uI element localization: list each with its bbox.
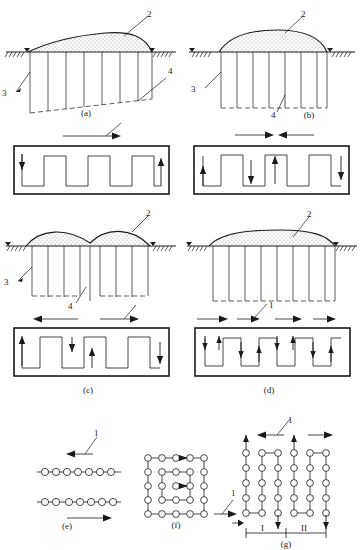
box-outline-a <box>14 146 169 194</box>
panel-b-box-group <box>181 118 361 208</box>
mound-fill-b <box>219 30 327 52</box>
arrow-head-e2 <box>103 515 112 522</box>
column-lines-g <box>246 453 326 513</box>
piles-d <box>213 246 335 301</box>
box-outline-b <box>194 146 349 194</box>
left-external-arrow-g <box>232 520 244 527</box>
circle-row-e-bottom <box>41 498 116 505</box>
circle-row-e-top <box>41 468 114 475</box>
panel-d-box-group: 1 (d) <box>181 300 361 410</box>
panel-a-box-group <box>0 118 181 208</box>
arrow-head-e1 <box>66 451 75 458</box>
box-outline-d <box>195 328 350 376</box>
arrow-head-c1 <box>33 316 42 323</box>
leader-4-b <box>277 95 285 112</box>
caption-c: (c) <box>68 385 108 395</box>
panel-f: 1 (f) <box>130 420 240 545</box>
label-3-a: 3 <box>2 88 7 98</box>
piles-b <box>221 52 327 108</box>
arrow-head-c2 <box>130 316 139 323</box>
square-wave-d <box>205 338 341 366</box>
panel-e: 1 (e) <box>5 420 125 545</box>
label-1-d: 1 <box>269 300 274 310</box>
square-wave-b <box>203 155 341 186</box>
caption-g: (g) <box>266 539 306 549</box>
leader-2-a <box>124 16 148 36</box>
arrow-head-b2 <box>278 132 287 139</box>
panel-b-box-drawing <box>181 118 361 208</box>
caption-a: (a) <box>66 108 106 118</box>
label-roman-one-g: I <box>261 523 264 533</box>
label-4-a: 4 <box>168 66 173 76</box>
circle-columns-g <box>243 450 330 517</box>
caption-e: (e) <box>47 521 87 531</box>
figure-root: 2 3 4 (a) <box>0 0 361 550</box>
box-arrows-b <box>200 156 344 186</box>
leader-3-a <box>16 72 30 92</box>
label-roman-two-g: II <box>301 523 307 533</box>
box-arrows-d <box>202 336 333 362</box>
caption-d: (d) <box>249 385 289 395</box>
top-arrows-d <box>197 304 336 323</box>
leader-1-e <box>85 437 97 454</box>
dimension-line-g <box>246 528 326 538</box>
leader-3-b <box>205 72 221 88</box>
panel-b: 2 3 4 (b) <box>181 0 361 130</box>
leader-2-c <box>132 216 148 232</box>
label-3-b: 3 <box>191 84 196 94</box>
piles-a <box>30 52 152 113</box>
piles-c <box>32 246 148 301</box>
arrow-head-a1 <box>112 133 121 140</box>
label-2-a: 2 <box>147 9 152 19</box>
square-wave-a <box>22 156 161 186</box>
label-1-e: 1 <box>94 428 99 438</box>
mound-fill-d <box>209 230 335 246</box>
caption-f: (f) <box>156 520 196 530</box>
label-2-b: 2 <box>301 9 306 19</box>
arrow-head-b1 <box>265 132 274 139</box>
box-arrows-a <box>19 154 164 186</box>
box-arrows-c <box>19 336 163 368</box>
panel-a-box-drawing <box>0 118 181 208</box>
circle-grid-f <box>145 455 208 518</box>
label-2-d: 2 <box>307 209 312 219</box>
leader-3-c <box>18 267 32 281</box>
label-2-c: 2 <box>146 208 151 218</box>
label-1-g: 1 <box>288 415 293 425</box>
panel-a: 2 3 4 (a) <box>0 0 181 130</box>
panel-g-drawing <box>232 415 361 550</box>
panel-g: 1 I II (g) <box>232 415 361 550</box>
label-3-c: 3 <box>4 277 9 287</box>
panel-c-box-group: (c) <box>0 300 181 410</box>
